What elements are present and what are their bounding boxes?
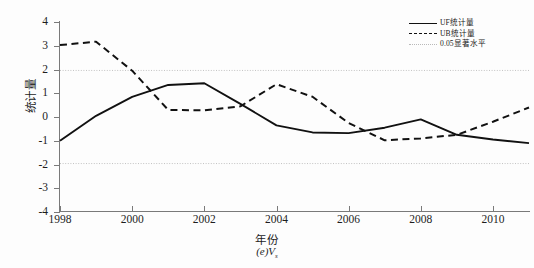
legend-label-ub: UB统计量 — [440, 29, 475, 40]
legend-item-ub: UB统计量 — [408, 29, 532, 40]
figure-panel: 43210-1-2-3-4 19982000200220042006200820… — [0, 0, 534, 268]
legend-item-uf: UF统计量 — [408, 18, 532, 29]
legend-key-solid-icon — [408, 19, 438, 28]
legend-label-significance: 0.05显著水平 — [440, 39, 486, 50]
legend-item-significance: 0.05显著水平 — [408, 39, 532, 50]
series-line-uf — [60, 83, 529, 143]
legend: UF统计量 UB统计量 0.05显著水平 — [408, 18, 532, 50]
legend-key-dotted-icon — [408, 40, 438, 49]
series-line-ub — [60, 42, 529, 141]
legend-label-uf: UF统计量 — [440, 18, 474, 29]
legend-key-dashed-icon — [408, 29, 438, 38]
